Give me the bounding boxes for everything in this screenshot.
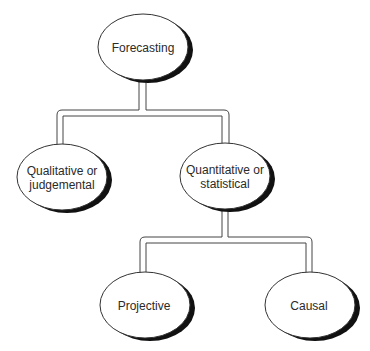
connector-bottom	[140, 208, 312, 275]
node-causal: Causal	[265, 272, 360, 341]
node-label-causal: Causal	[290, 299, 327, 313]
node-label-qualitative-2: judgemental	[28, 178, 94, 192]
node-quantitative: Quantitative or statistical	[180, 143, 275, 212]
node-label-quantitative-1: Quantitative or	[186, 163, 264, 177]
node-projective: Projective	[100, 272, 195, 341]
connector-top	[57, 80, 229, 148]
node-label-quantitative-2: statistical	[200, 177, 249, 191]
node-label-projective: Projective	[118, 299, 171, 313]
forecasting-tree-diagram: Forecasting Qualitative or judgemental Q…	[0, 0, 370, 351]
node-label-qualitative-1: Qualitative or	[27, 164, 98, 178]
node-qualitative: Qualitative or judgemental	[17, 144, 112, 213]
node-label-forecasting: Forecasting	[112, 41, 175, 55]
node-forecasting: Forecasting	[98, 14, 193, 83]
